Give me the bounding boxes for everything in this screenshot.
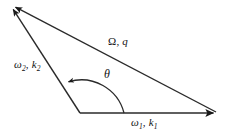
label-omega1-symbol: ω — [131, 116, 139, 128]
wave-vector-triangle-figure: Ω, q ω2, k2 ω1, k1 θ — [0, 0, 228, 135]
label-k1-subscript: 1 — [154, 122, 158, 131]
label-omega-q: Ω, q — [108, 36, 128, 47]
label-omega2-k2: ω2, k2 — [14, 59, 40, 70]
label-k1-symbol: k — [149, 116, 154, 128]
label-omega1-k1: ω1, k1 — [131, 117, 157, 128]
label-theta: θ — [104, 68, 110, 80]
label-k2-symbol: k — [32, 58, 37, 70]
label-k2-subscript: 2 — [37, 64, 41, 73]
label-omega-q-wave: q — [122, 35, 128, 47]
label-omega2-subscript: 2 — [22, 64, 26, 73]
label-omega1-subscript: 1 — [139, 122, 143, 131]
label-omega2-symbol: ω — [14, 58, 22, 70]
